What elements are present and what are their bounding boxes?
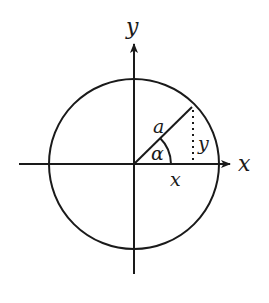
angle-label: α xyxy=(151,142,164,164)
vertical-leg-label: y xyxy=(197,132,209,154)
horizontal-leg-label: x xyxy=(170,168,181,190)
y-axis-label: y xyxy=(125,14,139,39)
radius-label: a xyxy=(153,115,164,137)
unit-circle-diagram: y x a α y x xyxy=(0,0,269,303)
x-axis-label: x xyxy=(238,151,251,176)
